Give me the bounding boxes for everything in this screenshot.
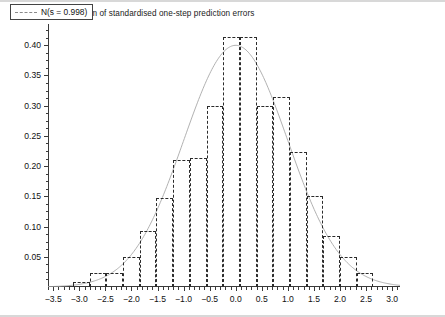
x-tick-minor: [377, 287, 378, 290]
x-tick-minor: [215, 287, 216, 290]
histogram-bar: [73, 282, 90, 287]
y-tick-label: 0.20: [24, 161, 41, 171]
x-tick-minor: [356, 287, 357, 290]
x-tick: [392, 287, 393, 291]
x-tick-minor: [272, 287, 273, 290]
x-tick-label: 1.5: [308, 294, 320, 304]
x-tick: [236, 287, 237, 291]
x-tick-minor: [69, 287, 70, 290]
histogram-bar: [357, 273, 374, 287]
x-tick-minor: [48, 287, 49, 290]
x-tick-label: −0.5: [201, 294, 218, 304]
y-tick-label: 0.25: [24, 131, 41, 141]
x-tick: [340, 287, 341, 291]
x-tick-minor: [152, 287, 153, 290]
x-tick-minor: [277, 287, 278, 290]
y-tick-label: 0.30: [24, 101, 41, 111]
x-tick-label: 0.0: [230, 294, 242, 304]
plot-area: 0.050.100.150.200.250.300.350.40 −3.5−3.…: [48, 24, 400, 287]
x-tick-minor: [335, 287, 336, 290]
x-tick-minor: [90, 287, 91, 290]
x-tick-minor: [251, 287, 252, 290]
legend: N(s = 0.998): [10, 4, 93, 20]
x-tick-minor: [74, 287, 75, 290]
legend-line-swatch: [15, 12, 37, 13]
x-tick: [79, 287, 80, 291]
histogram-bar: [340, 257, 357, 287]
x-tick-minor: [194, 287, 195, 290]
x-tick-minor: [199, 287, 200, 290]
x-tick-minor: [126, 287, 127, 290]
y-tick-label: 0.10: [24, 222, 41, 232]
x-tick-minor: [319, 287, 320, 290]
x-tick-minor: [163, 287, 164, 290]
histogram-bar: [207, 106, 224, 287]
y-tick-label: 0.05: [24, 252, 41, 262]
x-tick-label: 1.0: [282, 294, 294, 304]
histogram-bar: [240, 37, 257, 287]
x-tick-minor: [257, 287, 258, 290]
x-tick: [314, 287, 315, 291]
x-tick-minor: [298, 287, 299, 290]
x-tick: [366, 287, 367, 291]
x-tick-minor: [387, 287, 388, 290]
x-tick-label: −2.5: [97, 294, 114, 304]
x-tick-minor: [137, 287, 138, 290]
histogram-figure: Histogram of standardised one-step predi…: [0, 0, 445, 317]
x-tick-minor: [147, 287, 148, 290]
histogram-bar: [190, 158, 207, 287]
x-tick-label: −3.5: [45, 294, 62, 304]
x-tick-minor: [361, 287, 362, 290]
x-tick-label: −2.0: [123, 294, 140, 304]
histogram-bar: [290, 152, 307, 287]
y-tick-label: 0.15: [24, 191, 41, 201]
x-tick-label: 2.0: [334, 294, 346, 304]
x-tick-minor: [116, 287, 117, 290]
x-tick-minor: [121, 287, 122, 290]
x-tick-label: 2.5: [360, 294, 372, 304]
x-tick: [158, 287, 159, 291]
x-tick-minor: [304, 287, 305, 290]
x-tick: [131, 287, 132, 291]
x-tick: [105, 287, 106, 291]
x-tick: [53, 287, 54, 291]
x-tick-minor: [382, 287, 383, 290]
x-tick-minor: [330, 287, 331, 290]
x-tick-minor: [371, 287, 372, 290]
x-tick-minor: [85, 287, 86, 290]
x-tick-minor: [397, 287, 398, 290]
histogram-bar: [257, 106, 274, 287]
x-tick-minor: [241, 287, 242, 290]
x-tick-minor: [225, 287, 226, 290]
histogram-bar: [323, 236, 340, 287]
x-tick-minor: [309, 287, 310, 290]
x-tick-label: −3.0: [71, 294, 88, 304]
x-tick-minor: [293, 287, 294, 290]
x-tick-minor: [58, 287, 59, 290]
histogram-bar: [140, 231, 157, 287]
x-tick-label: −1.5: [149, 294, 166, 304]
x-tick-minor: [246, 287, 247, 290]
y-tick-label: 0.40: [24, 40, 41, 50]
x-tick-minor: [168, 287, 169, 290]
x-tick: [288, 287, 289, 291]
histogram-bar: [106, 273, 123, 287]
y-tick-label: 0.35: [24, 70, 41, 80]
x-tick-label: 3.0: [386, 294, 398, 304]
x-tick: [184, 287, 185, 291]
x-tick-minor: [350, 287, 351, 290]
x-tick-minor: [231, 287, 232, 290]
legend-label: N(s = 0.998): [41, 7, 87, 17]
x-tick-minor: [324, 287, 325, 290]
histogram-bar: [173, 160, 190, 287]
histogram-bar: [123, 257, 140, 287]
x-tick: [262, 287, 263, 291]
x-tick-minor: [178, 287, 179, 290]
x-tick-minor: [220, 287, 221, 290]
histogram-bar: [90, 273, 107, 287]
histogram-bar: [307, 196, 324, 287]
x-tick-minor: [111, 287, 112, 290]
histogram-bar: [156, 198, 173, 287]
histogram-bar: [273, 97, 290, 287]
histogram-bar: [223, 37, 240, 287]
